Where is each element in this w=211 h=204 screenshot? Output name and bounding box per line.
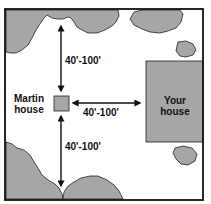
martin-house [54, 96, 69, 111]
tree-small-bottom-right [173, 146, 197, 165]
tree-cluster-top-left [6, 10, 119, 53]
tree-cluster-top-right [130, 10, 183, 33]
martin-house-label-line2: house [14, 104, 44, 115]
tree-cluster-bottom-left [6, 142, 63, 199]
tree-cluster-bottom-center [63, 176, 123, 199]
tree-small-right [176, 41, 196, 57]
your-house-label-line2: house [160, 106, 190, 117]
distance-label-right: 40'-100' [83, 107, 119, 118]
site-diagram: Your house Martin house 40'-100' 40'-100… [0, 0, 211, 204]
distance-label-bottom: 40'-100' [65, 141, 101, 152]
your-house-label-line1: Your [164, 95, 186, 106]
martin-house-label-line1: Martin [14, 93, 44, 104]
distance-label-top: 40'-100' [65, 55, 101, 66]
